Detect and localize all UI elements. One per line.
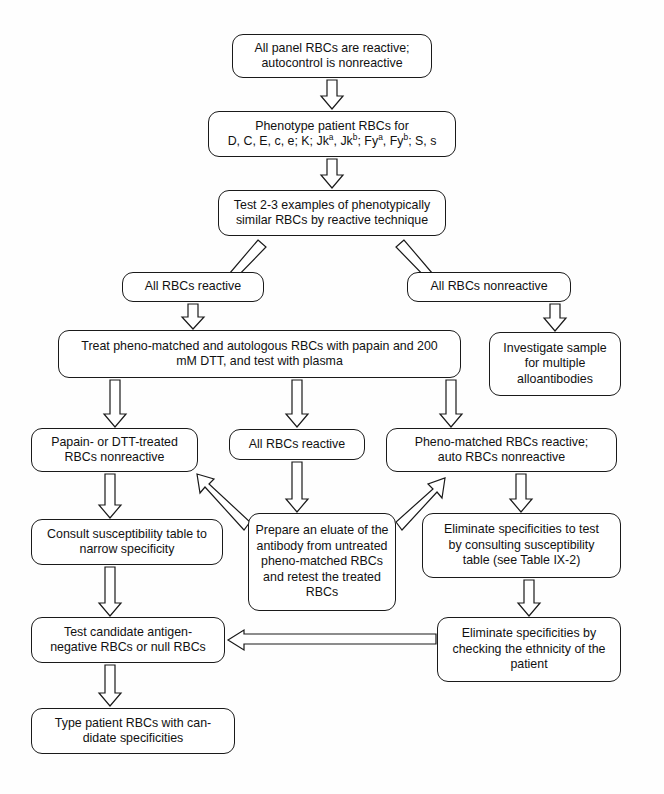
node-papain-dtt-treated-rbcs-nonreactive[interactable]: Papain- or DTT-treated RBCs nonreactive	[31, 428, 198, 472]
edge-n5-n7	[544, 304, 566, 331]
node-consult-susceptibility-table[interactable]: Consult susceptibility table to narrow s…	[31, 519, 223, 565]
node-test-candidate-antigen-negative[interactable]: Test candidate antigen- negative RBCs or…	[31, 617, 225, 663]
edge-n9-n12	[286, 462, 308, 512]
phenotype-line1: Phenotype patient RBCs for	[255, 119, 409, 133]
phenotype-line2-e: ; S, s	[408, 134, 436, 148]
node-pheno-matched-reactive-auto-nonreactive[interactable]: Pheno-matched RBCs reactive; auto RBCs n…	[386, 428, 617, 472]
node-text: Consult susceptibility table to narrow s…	[38, 527, 216, 558]
edge-n11-n14	[99, 567, 121, 616]
node-text: Eliminate specificities to test by consu…	[429, 522, 614, 569]
edge-n1-n2	[321, 80, 343, 109]
node-investigate-sample-multiple-alloantibodies[interactable]: Investigate sample for multiple alloanti…	[489, 332, 621, 396]
phenotype-line2-c: ; Fy	[357, 134, 378, 148]
node-text: Treat pheno-matched and autologous RBCs …	[65, 339, 454, 370]
node-eliminate-specificities-ethnicity[interactable]: Eliminate specificities by checking the …	[437, 617, 621, 682]
node-all-rbcs-nonreactive-branch[interactable]: All RBCs nonreactive	[407, 272, 571, 302]
edge-n4-n6	[182, 304, 204, 329]
edge-n2-n3	[321, 159, 343, 188]
edge-n6-n8	[104, 380, 126, 427]
node-text: Phenotype patient RBCs forD, C, E, c, e;…	[215, 119, 449, 150]
node-test-examples-phenotypically-similar[interactable]: Test 2-3 examples of phenotypically simi…	[218, 190, 446, 236]
node-treat-pheno-matched-autologous[interactable]: Treat pheno-matched and autologous RBCs …	[58, 330, 461, 378]
edge-n6-n9	[286, 380, 308, 427]
node-text: All RBCs nonreactive	[414, 279, 564, 295]
node-all-panel-rbcs-reactive[interactable]: All panel RBCs are reactive; autocontrol…	[232, 34, 432, 78]
edge-n10-n13	[510, 474, 532, 512]
phenotype-line2-d: , Fy	[383, 134, 404, 148]
node-text: Type patient RBCs with can- didate speci…	[38, 716, 228, 747]
phenotype-line2-b: , Jk	[334, 134, 353, 148]
node-text: Investigate sample for multiple alloanti…	[496, 341, 614, 388]
edge-n8-n11	[99, 474, 121, 518]
edge-n13-n15	[518, 580, 540, 616]
node-phenotype-patient-rbcs[interactable]: Phenotype patient RBCs forD, C, E, c, e;…	[208, 111, 456, 157]
node-text: All RBCs reactive	[236, 437, 358, 453]
node-all-rbcs-reactive-mid[interactable]: All RBCs reactive	[229, 429, 365, 460]
node-text: Prepare an eluate of the antibody from u…	[255, 523, 389, 601]
node-text: Papain- or DTT-treated RBCs nonreactive	[38, 435, 191, 466]
node-text: Test 2-3 examples of phenotypically simi…	[225, 198, 439, 229]
edge-n15-n14	[228, 630, 436, 650]
node-text: All panel RBCs are reactive; autocontrol…	[239, 41, 425, 72]
edge-n6-n10	[440, 380, 462, 427]
flowchart-canvas: All panel RBCs are reactive; autocontrol…	[0, 0, 664, 794]
node-prepare-eluate-antibody[interactable]: Prepare an eluate of the antibody from u…	[248, 513, 396, 611]
node-text: Test candidate antigen- negative RBCs or…	[38, 625, 218, 656]
node-text: Pheno-matched RBCs reactive; auto RBCs n…	[393, 435, 610, 466]
node-text: Eliminate specificities by checking the …	[444, 626, 614, 673]
node-type-patient-rbcs-candidate[interactable]: Type patient RBCs with can- didate speci…	[31, 708, 235, 754]
edge-n14-n16	[99, 665, 121, 706]
phenotype-line2-a: D, C, E, c, e; K; Jk	[228, 134, 329, 148]
node-all-rbcs-reactive-branch[interactable]: All RBCs reactive	[122, 272, 264, 302]
node-text: All RBCs reactive	[129, 279, 257, 295]
node-eliminate-specificities-consulting-table[interactable]: Eliminate specificities to test by consu…	[422, 513, 621, 578]
